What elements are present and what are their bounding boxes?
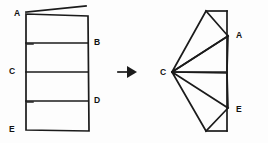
left-label-b: B — [94, 37, 100, 47]
left-label-e: E — [9, 124, 15, 134]
left-label-d: D — [94, 95, 100, 105]
transition-arrow — [118, 66, 137, 78]
left-label-a: A — [14, 8, 20, 18]
left-label-c: C — [9, 66, 15, 76]
right-label-a: A — [236, 30, 242, 40]
fan-panel-upper-inner — [172, 36, 228, 72]
folding-diagram-svg: A B C D E — [0, 0, 268, 143]
figure-root: A B C D E — [0, 0, 268, 143]
right-label-c: C — [160, 67, 166, 77]
arrow-head-icon — [127, 66, 137, 78]
strip-top-flap-line — [26, 6, 86, 12]
left-figure-unfolded-strip: A B C D E — [9, 6, 100, 134]
right-label-e: E — [236, 104, 242, 114]
fan-panel-lower-outer — [172, 72, 228, 131]
right-figure-folded-fan: A C E — [160, 11, 242, 131]
